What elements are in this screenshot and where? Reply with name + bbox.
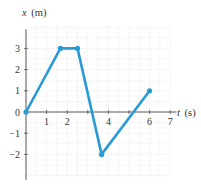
y-tick-label: 2 <box>15 64 20 75</box>
data-point <box>147 88 152 93</box>
data-point <box>99 152 104 157</box>
y-tick-label: 0 <box>15 107 20 118</box>
data-point <box>58 46 63 51</box>
x-tick-label: 1 <box>44 116 49 127</box>
x-tick-label: 7 <box>168 116 173 127</box>
x-tick-label: 6 <box>147 116 152 127</box>
y-tick-label: 3 <box>15 43 20 54</box>
y-tick-label: −1 <box>9 128 20 139</box>
x-tick-label: 4 <box>106 116 111 127</box>
y-tick-label: −2 <box>9 149 20 160</box>
y-axis-unit: (m) <box>31 7 47 19</box>
y-tick-label: 1 <box>15 85 20 96</box>
x-axis-var: t <box>177 107 181 118</box>
x-axis-unit: (s) <box>185 107 197 119</box>
grid <box>26 27 170 175</box>
y-axis-var: x <box>21 7 27 18</box>
position-time-chart: 124673210−1−2 x (m) t (s) <box>0 0 201 187</box>
data-point <box>75 46 80 51</box>
y-axis-label: x (m) <box>21 7 47 19</box>
x-axis-label: t (s) <box>177 107 196 119</box>
data-point <box>23 109 28 114</box>
x-tick-label: 2 <box>65 116 70 127</box>
